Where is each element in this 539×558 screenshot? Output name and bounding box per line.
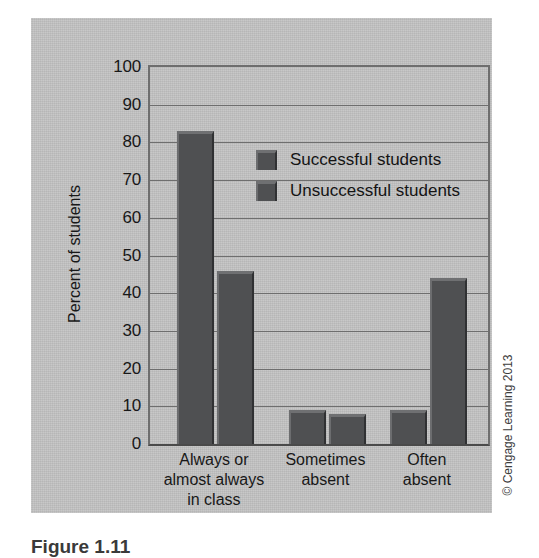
figure-caption: Figure 1.11 [31, 536, 130, 558]
chart-legend: Successful students Unsuccessful student… [256, 144, 460, 206]
bar-2-1 [430, 278, 467, 444]
bar-1-0 [289, 410, 326, 444]
x-axis-label-line: in class [134, 490, 294, 510]
bar-2-0 [390, 410, 427, 444]
y-axis-tick-label: 100 [113, 57, 141, 77]
figure-panel: Percent of students 01020304050607080901… [31, 18, 492, 513]
bar-0-0 [177, 131, 214, 444]
bar-1-1 [329, 414, 366, 444]
x-axis-label-line: absent [347, 470, 507, 490]
legend-label-successful: Successful students [290, 150, 441, 170]
legend-label-unsuccessful: Unsuccessful students [290, 181, 460, 201]
legend-swatch-icon-unsuccessful [256, 181, 277, 201]
gridline [150, 105, 488, 106]
bar-0-1 [217, 271, 254, 444]
y-axis-tick-label: 90 [122, 95, 141, 115]
y-axis-tick-label: 60 [122, 208, 141, 228]
y-axis-tick-label: 50 [122, 246, 141, 266]
y-axis-title: Percent of students [66, 185, 84, 323]
y-axis-tick-label: 30 [122, 321, 141, 341]
plot-area: 0102030405060708090100 [148, 65, 490, 446]
legend-swatch-icon-successful [256, 150, 277, 170]
x-axis-label-line: Often [347, 450, 507, 470]
plot-inner: 0102030405060708090100 [150, 67, 488, 444]
legend-item-successful: Successful students [256, 144, 460, 175]
legend-item-unsuccessful: Unsuccessful students [256, 175, 460, 206]
copyright-notice: © Cengage Learning 2013 [501, 355, 515, 496]
y-axis-tick-label: 70 [122, 170, 141, 190]
y-axis-tick-label: 40 [122, 283, 141, 303]
x-axis-label-group-2: Oftenabsent [347, 450, 507, 490]
y-axis-tick-label: 20 [122, 359, 141, 379]
y-axis-tick-label: 10 [122, 396, 141, 416]
y-axis-tick-label: 80 [122, 132, 141, 152]
